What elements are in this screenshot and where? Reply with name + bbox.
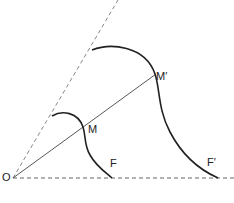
label-m-prime: M′ — [156, 71, 167, 82]
ray-through-m — [13, 74, 156, 178]
label-f: F — [110, 158, 117, 169]
upper-ray-dashed — [13, 0, 118, 178]
curve-small — [52, 113, 112, 178]
label-m: M — [88, 124, 97, 135]
label-f-prime: F′ — [207, 157, 216, 168]
label-origin: O — [2, 172, 11, 183]
diagram-canvas — [0, 0, 234, 203]
